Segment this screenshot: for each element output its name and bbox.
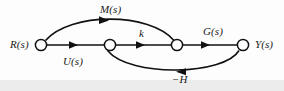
node-m xyxy=(171,39,182,50)
node-u xyxy=(104,39,115,50)
edge-y-to-u-curve xyxy=(108,51,240,71)
label-input-r: R(s) xyxy=(10,39,29,50)
label-edge-u: U(s) xyxy=(63,56,83,67)
signal-flow-graph-figure: R(s) Y(s) U(s) k G(s) M(s) −H xyxy=(0,0,284,91)
node-input-r xyxy=(35,39,46,50)
node-output-y xyxy=(237,39,248,50)
arrowhead-m-to-y xyxy=(201,41,210,49)
arrowhead-r-to-u xyxy=(69,41,78,49)
label-output-y: Y(s) xyxy=(255,39,273,50)
label-edge-k: k xyxy=(139,28,144,39)
arrowhead-r-to-m xyxy=(99,16,109,24)
label-edge-g: G(s) xyxy=(203,26,223,37)
arrowhead-u-to-m xyxy=(136,41,145,49)
edge-r-to-m-curve xyxy=(46,19,175,40)
label-edge-minus-h: −H xyxy=(172,74,188,85)
label-edge-m: M(s) xyxy=(100,4,121,15)
signal-flow-graph-canvas xyxy=(0,0,284,91)
